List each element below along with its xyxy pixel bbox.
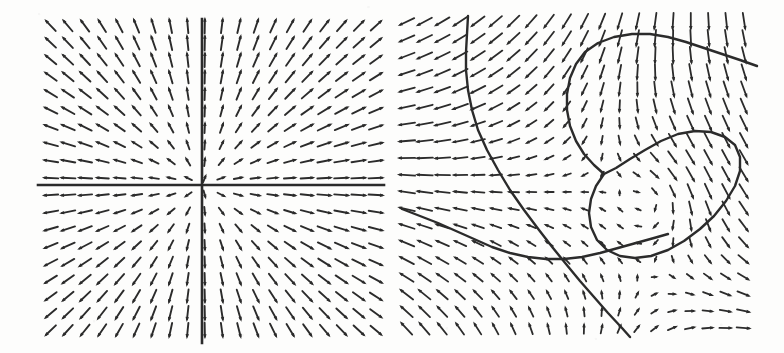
right-trajectory-group [402,16,757,337]
left-axes-group [38,19,384,343]
right-arrow-group [397,13,752,335]
panel-right-nonlinear-field [392,0,784,353]
left-arrow-group [42,17,385,339]
left-field-canvas [0,0,392,353]
panel-left-saddle-field [0,0,392,353]
figure-root [0,0,784,353]
right-field-canvas [392,0,784,353]
